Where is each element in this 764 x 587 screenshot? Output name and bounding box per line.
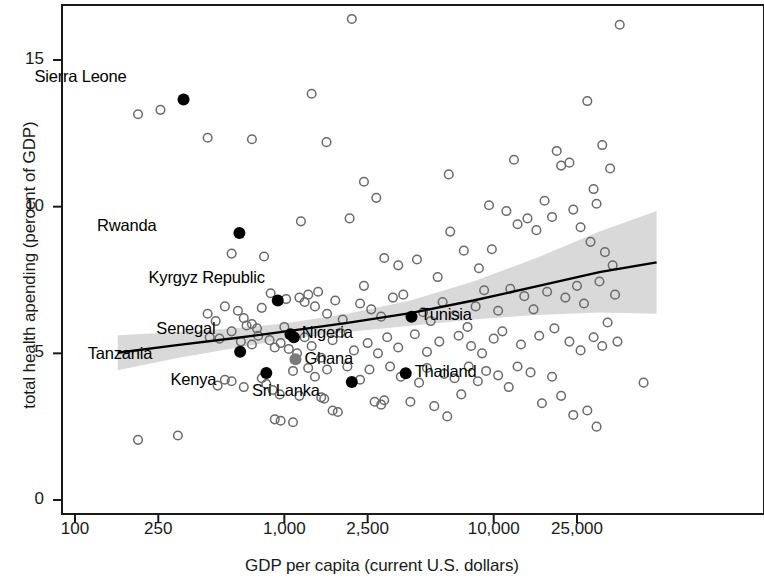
data-point-open <box>606 164 615 173</box>
data-point-open <box>134 436 143 445</box>
data-point-open <box>394 343 403 352</box>
data-point-open <box>363 339 372 348</box>
data-point-open <box>399 290 408 299</box>
point-label: Nigeria <box>302 323 353 342</box>
data-point-open <box>248 135 257 144</box>
data-point-open <box>203 309 212 318</box>
data-point-open <box>174 431 183 440</box>
data-point-open <box>589 333 598 342</box>
data-point-open <box>372 194 381 203</box>
point-label: Ghana <box>304 349 353 368</box>
data-point-open <box>475 264 484 273</box>
data-point-open <box>538 399 547 408</box>
data-point-open <box>613 337 622 346</box>
point-label: Tunisia <box>421 305 472 324</box>
data-point-open <box>557 161 566 170</box>
data-point-open <box>333 408 342 417</box>
data-point-open <box>134 110 143 119</box>
data-point-open <box>443 412 452 421</box>
data-point-open <box>510 155 519 164</box>
data-point-open <box>413 255 422 264</box>
data-point-open <box>569 205 578 214</box>
data-point-open <box>320 395 329 404</box>
data-point-open <box>433 273 442 282</box>
data-point-open <box>360 177 369 186</box>
data-point-highlighted <box>260 367 272 379</box>
data-point-open <box>289 367 298 376</box>
data-point-open <box>446 227 455 236</box>
data-point-open <box>234 307 243 316</box>
data-point-open <box>598 342 607 351</box>
data-point-open <box>297 217 306 226</box>
data-point-highlighted <box>289 353 301 365</box>
data-point-open <box>323 309 332 318</box>
data-point-open <box>494 371 503 380</box>
data-point-open <box>565 158 574 167</box>
data-point-open <box>517 340 526 349</box>
data-point-open <box>304 290 313 299</box>
data-point-highlighted <box>406 311 418 323</box>
data-point-highlighted <box>233 227 245 239</box>
data-point-open <box>523 214 532 223</box>
data-point-open <box>444 170 453 179</box>
x-axis-title: GDP per capita (current U.S. dollars) <box>0 556 764 576</box>
data-point-highlighted <box>400 367 412 379</box>
data-point-open <box>411 330 420 339</box>
data-point-open <box>331 296 340 305</box>
data-point-open <box>365 365 374 374</box>
data-point-open <box>615 21 624 30</box>
data-point-open <box>502 207 511 216</box>
data-point-open <box>557 392 566 401</box>
data-point-open <box>532 226 541 235</box>
data-point-open <box>314 287 323 296</box>
data-point-highlighted <box>288 331 300 343</box>
x-tick-label: 250 <box>108 519 208 539</box>
data-point-open <box>589 185 598 194</box>
data-point-open <box>221 302 230 311</box>
data-point-open <box>389 293 398 302</box>
data-point-open <box>394 261 403 270</box>
data-point-open <box>386 362 395 371</box>
axes-frame <box>53 5 764 523</box>
data-point-open <box>576 223 585 232</box>
data-point-open <box>383 333 392 342</box>
x-tick-label: 2,500 <box>318 519 418 539</box>
data-point-open <box>322 138 331 147</box>
data-point-open <box>488 245 497 254</box>
y-axis-title: total health apending (percent of GDP) <box>20 30 40 500</box>
data-point-open <box>156 106 165 115</box>
data-point-open <box>406 397 415 406</box>
data-point-open <box>548 373 557 382</box>
data-point-open <box>345 214 354 223</box>
data-point-open <box>270 415 279 424</box>
data-point-open <box>435 337 444 346</box>
plot-canvas <box>0 0 764 587</box>
data-point-open <box>569 411 578 420</box>
data-point-open <box>227 249 236 258</box>
data-point-open <box>430 402 439 411</box>
data-point-open <box>270 343 279 352</box>
point-label: Kyrgyz Republic <box>149 268 265 287</box>
data-point-open <box>576 346 585 355</box>
data-point-open <box>307 89 316 98</box>
data-point-open <box>482 367 491 376</box>
scatter-chart-figure: 1002501,0002,50010,00025,000051015 Sierr… <box>0 0 764 587</box>
data-point-open <box>485 201 494 210</box>
data-point-open <box>374 349 383 358</box>
point-label: Tanzania <box>88 344 152 363</box>
data-point-open <box>565 337 574 346</box>
data-point-open <box>592 199 601 208</box>
point-label: Kenya <box>171 370 217 389</box>
data-point-open <box>639 378 648 387</box>
data-point-open <box>284 345 293 354</box>
data-point-open <box>360 282 369 291</box>
data-point-open <box>540 197 549 206</box>
data-point-open <box>454 331 463 340</box>
x-tick-label: 25,000 <box>527 519 627 539</box>
data-point-open <box>535 331 544 340</box>
data-point-open <box>598 141 607 150</box>
data-point-open <box>603 318 612 327</box>
data-point-open <box>289 418 298 427</box>
data-point-open <box>257 304 266 313</box>
data-point-open <box>356 299 365 308</box>
